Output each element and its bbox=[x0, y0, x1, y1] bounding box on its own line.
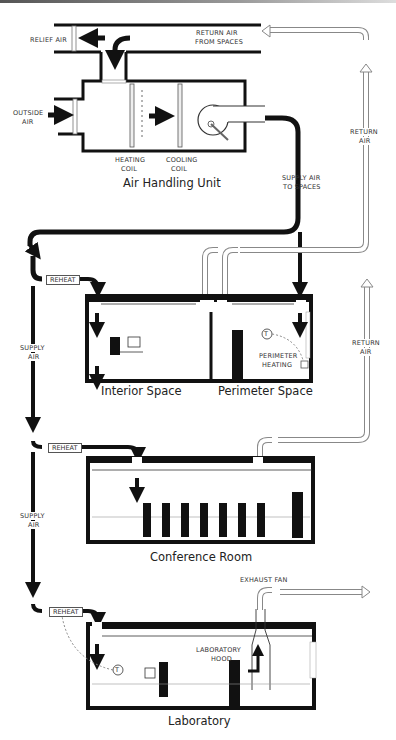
reheat-box-2: REHEAT bbox=[48, 443, 82, 453]
outside-air-label-2: AIR bbox=[22, 118, 33, 126]
cooling-coil-label-2: COIL bbox=[171, 165, 187, 173]
ahu-title: Air Handling Unit bbox=[123, 176, 221, 190]
supply-air-label-1a: SUPPLY bbox=[20, 344, 45, 352]
room-interior-perimeter bbox=[87, 296, 311, 382]
laboratory-hood-label-1: LABORATORY bbox=[196, 646, 241, 654]
return-air-label-2b: AIR bbox=[360, 348, 371, 356]
supply-air-label-2b: AIR bbox=[28, 521, 39, 529]
exhaust-fan-label: EXHAUST FAN bbox=[240, 576, 287, 584]
supply-air-to-spaces-label-2: TO SPACES bbox=[283, 183, 321, 191]
perimeter-heating-label-2: HEATING bbox=[262, 361, 292, 369]
conference-room-title: Conference Room bbox=[150, 550, 252, 564]
supply-duct bbox=[30, 118, 300, 620]
heating-coil-label-2: COIL bbox=[121, 165, 137, 173]
supply-air-label-1b: AIR bbox=[28, 353, 39, 361]
return-air-from-spaces-label-2: FROM SPACES bbox=[195, 38, 243, 46]
room-conference bbox=[88, 457, 313, 542]
return-air-label-2a: RETURN bbox=[352, 339, 380, 347]
return-air-label-1a: RETURN bbox=[350, 128, 378, 136]
reheat-box-1: REHEAT bbox=[46, 275, 80, 285]
laboratory-hood-label-2: HOOD bbox=[211, 655, 232, 663]
perimeter-space-title: Perimeter Space bbox=[218, 384, 313, 398]
thermostat-perimeter: T bbox=[264, 330, 268, 338]
return-air-from-spaces-label-1: RETURN AIR bbox=[196, 29, 238, 37]
perimeter-heating-label-1: PERIMETER bbox=[259, 352, 298, 360]
heating-coil-label-1: HEATING bbox=[115, 156, 145, 164]
laboratory-title: Laboratory bbox=[168, 714, 231, 728]
cooling-coil-label-1: COOLING bbox=[166, 156, 198, 164]
reheat-box-3: REHEAT bbox=[49, 607, 83, 617]
room-laboratory bbox=[62, 609, 316, 708]
supply-air-to-spaces-label-1: SUPPLY AIR bbox=[282, 174, 320, 182]
interior-space-title: Interior Space bbox=[101, 384, 182, 398]
outside-air-label-1: OUTSIDE bbox=[13, 109, 43, 117]
relief-air-label: RELIEF AIR bbox=[30, 36, 67, 44]
hvac-diagram bbox=[0, 0, 396, 740]
supply-air-label-2a: SUPPLY bbox=[20, 512, 45, 520]
thermostat-laboratory: T bbox=[115, 666, 119, 674]
return-air-label-1b: AIR bbox=[359, 137, 370, 145]
